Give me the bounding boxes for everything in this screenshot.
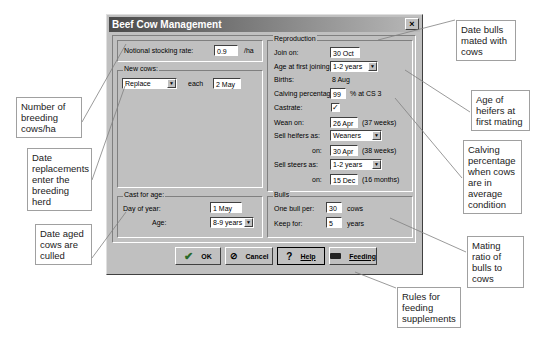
callout-stocking: Number of breeding cows/ha [16,97,82,138]
callout-calving: Calving percentage when cows are in aver… [463,140,522,214]
callout-heifer-age: Age of heifers at first mating [471,90,530,131]
callout-replacements: Date replacements enter the breeding her… [27,148,92,211]
callout-mating-ratio: Mating ratio of bulls to cows [467,236,524,288]
callout-culled: Date aged cows are culled [35,224,92,265]
callout-bulls-date: Date bulls mated with cows [456,20,516,61]
callout-feeding-rules: Rules for feeding supplements [397,287,461,328]
